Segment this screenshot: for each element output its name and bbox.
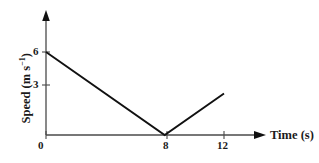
y-axis-title-base: Speed (m s	[19, 66, 33, 124]
y-tick-label-3: 3	[33, 79, 39, 90]
y-tick-label-6: 6	[33, 46, 39, 57]
x-axis-title: Time (s)	[270, 129, 314, 142]
speed-time-graph: 6 3 0 8 12 Time (s) Speed (m s−1)	[0, 0, 319, 163]
y-axis-arrow-icon	[42, 10, 50, 21]
x-axis-arrow-icon	[254, 131, 266, 139]
y-axis-title: Speed (m s−1)	[20, 35, 33, 141]
x-tick-label-8: 8	[163, 140, 169, 151]
x-tick-label-12: 12	[217, 140, 228, 151]
y-axis-title-exponent: −1	[18, 57, 27, 66]
y-axis-title-tail: )	[19, 53, 33, 57]
speed-data-line	[46, 52, 224, 135]
x-tick-label-0: 0	[38, 140, 44, 151]
